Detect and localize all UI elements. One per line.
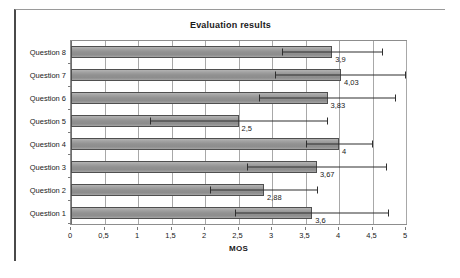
x-axis-label-2-5: 2,5	[232, 231, 242, 240]
x-axis-label-4-5: 4,5	[366, 231, 376, 240]
error-bar-cap-low	[306, 140, 307, 147]
error-bar-cap-high	[317, 186, 318, 193]
x-axis-tick	[137, 227, 138, 230]
error-bar-question-6	[259, 98, 396, 99]
y-axis-label-question-1: Question 1	[30, 208, 66, 217]
error-bar-question-4	[306, 143, 373, 144]
x-axis-label-3: 3	[269, 231, 273, 240]
x-axis: 00,511,522,533,544,55	[70, 227, 407, 241]
x-axis-title: MOS	[70, 244, 407, 253]
error-bar-question-1	[235, 212, 389, 213]
x-axis-label-3-5: 3,5	[299, 231, 309, 240]
y-axis-label-question-8: Question 8	[30, 48, 66, 57]
x-axis-label-2: 2	[202, 231, 206, 240]
error-bar-cap-low	[150, 118, 151, 125]
x-axis-label-0: 0	[68, 231, 72, 240]
error-bar-question-8	[282, 52, 383, 53]
bar-question-4[interactable]	[71, 138, 339, 150]
error-bar-question-5	[150, 121, 328, 122]
error-bar-cap-high	[382, 49, 383, 56]
chart-title: Evaluation results	[16, 20, 445, 30]
x-axis-tick	[104, 227, 105, 230]
error-bar-question-2	[210, 189, 317, 190]
x-axis-label-1-5: 1,5	[165, 231, 175, 240]
y-axis-label-question-5: Question 5	[30, 117, 66, 126]
x-axis-tick	[372, 227, 373, 230]
y-axis-label-question-6: Question 6	[30, 94, 66, 103]
bar-row: Question 63,83	[71, 87, 406, 110]
error-bar-cap-high	[388, 209, 389, 216]
x-axis-tick	[171, 227, 172, 230]
value-label-question-1: 3,6	[315, 216, 325, 225]
x-axis-label-0-5: 0,5	[98, 231, 108, 240]
x-axis-tick	[238, 227, 239, 230]
error-bar-cap-high	[395, 95, 396, 102]
error-bar-cap-high	[386, 163, 387, 170]
bar-row: Question 33,67	[71, 155, 406, 178]
x-axis-tick	[305, 227, 306, 230]
x-axis-tick	[271, 227, 272, 230]
bar-row: Question 22,88	[71, 178, 406, 201]
error-bar-question-7	[275, 75, 406, 76]
chart-card: Evaluation results Question 83,9Question…	[14, 9, 445, 261]
x-axis-label-4: 4	[336, 231, 340, 240]
bar-row: Question 52,5	[71, 110, 406, 133]
x-axis-label-5: 5	[403, 231, 407, 240]
error-bar-cap-high	[405, 72, 406, 79]
error-bar-cap-low	[259, 95, 260, 102]
x-axis-tick	[70, 227, 71, 230]
y-axis-label-question-4: Question 4	[30, 139, 66, 148]
error-bar-cap-low	[210, 186, 211, 193]
bar-row: Question 13,6	[71, 201, 406, 224]
x-axis-tick	[338, 227, 339, 230]
bar-row: Question 44	[71, 133, 406, 156]
error-bar-cap-low	[282, 49, 283, 56]
error-bar-cap-low	[275, 72, 276, 79]
x-axis-tick	[405, 227, 406, 230]
y-axis-tick	[68, 223, 71, 224]
error-bar-cap-low	[247, 163, 248, 170]
error-bar-question-3	[247, 166, 388, 167]
x-axis-tick	[204, 227, 205, 230]
gridline-x-5	[406, 41, 407, 224]
error-bar-cap-high	[372, 140, 373, 147]
y-axis-label-question-2: Question 2	[30, 185, 66, 194]
error-bar-cap-low	[235, 209, 236, 216]
x-axis-label-1: 1	[135, 231, 139, 240]
bar-row: Question 74,03	[71, 64, 406, 87]
error-bar-cap-high	[327, 118, 328, 125]
bar-row: Question 83,9	[71, 41, 406, 64]
y-axis-label-question-3: Question 3	[30, 162, 66, 171]
plot-area: Question 83,9Question 74,03Question 63,8…	[70, 40, 407, 225]
y-axis-label-question-7: Question 7	[30, 71, 66, 80]
